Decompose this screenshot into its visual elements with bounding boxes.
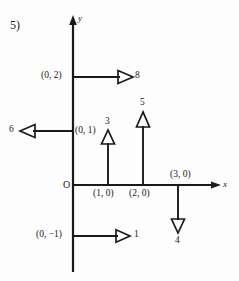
vector-6-arrow bbox=[20, 125, 73, 138]
vector-4-arrow bbox=[172, 185, 185, 233]
point-label-0-2: (0, 2) bbox=[41, 71, 62, 81]
point-label-0-1: (0, 1) bbox=[75, 126, 96, 136]
magnitude-label-5: 5 bbox=[140, 98, 145, 108]
figure-page: 5) y x O (0, 2) (0, 1) (0, −1) (1, 0) (2… bbox=[0, 0, 239, 281]
vector-5-arrow bbox=[137, 112, 150, 185]
vector-3-arrow bbox=[102, 130, 115, 185]
y-axis-label: y bbox=[78, 14, 82, 23]
problem-number: 5) bbox=[10, 19, 20, 31]
x-axis-label: x bbox=[223, 180, 227, 189]
magnitude-label-1: 1 bbox=[134, 230, 139, 240]
point-label-2-0: (2, 0) bbox=[129, 189, 150, 199]
vector-1-arrow bbox=[73, 230, 130, 242]
vector-8-arrow bbox=[73, 71, 133, 84]
point-label-1-0: (1, 0) bbox=[93, 189, 114, 199]
origin-label: O bbox=[63, 180, 70, 190]
y-axis bbox=[69, 15, 77, 272]
magnitude-label-3: 3 bbox=[105, 117, 110, 127]
point-label-3-0: (3, 0) bbox=[170, 170, 191, 180]
magnitude-label-6: 6 bbox=[9, 125, 14, 135]
magnitude-label-4: 4 bbox=[175, 236, 180, 246]
magnitude-label-8: 8 bbox=[135, 71, 140, 81]
point-label-0-neg1: (0, −1) bbox=[36, 230, 62, 240]
